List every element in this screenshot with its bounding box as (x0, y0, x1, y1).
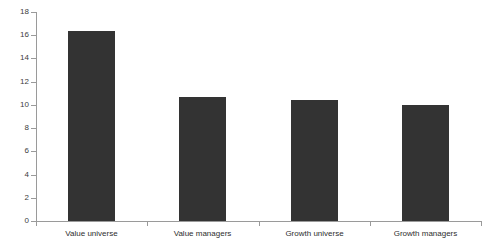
x-tick-mark (370, 222, 371, 226)
category-label: Value managers (147, 230, 258, 238)
bar (291, 100, 338, 221)
y-tick-label: 18 (3, 8, 29, 16)
plot-area (36, 12, 481, 221)
y-tick-label: 8 (3, 124, 29, 132)
y-tick-label: 2 (3, 194, 29, 202)
bar (402, 105, 449, 221)
category-label: Growth universe (259, 230, 370, 238)
category-label: Growth managers (370, 230, 481, 238)
category-label: Value universe (36, 230, 147, 238)
y-tick-label: 10 (3, 101, 29, 109)
bar (68, 31, 115, 221)
y-tick-label: 14 (3, 54, 29, 62)
y-tick-label: 12 (3, 78, 29, 86)
y-tick-label: 0 (3, 217, 29, 225)
bar (179, 97, 226, 221)
y-tick-label: 6 (3, 147, 29, 155)
y-tick-label: 16 (3, 31, 29, 39)
bar-chart: 024681012141618 Value universeValue mana… (0, 0, 493, 251)
x-tick-mark (36, 222, 37, 226)
x-tick-mark (147, 222, 148, 226)
x-tick-mark (259, 222, 260, 226)
x-tick-mark (481, 222, 482, 226)
y-tick-label: 4 (3, 171, 29, 179)
